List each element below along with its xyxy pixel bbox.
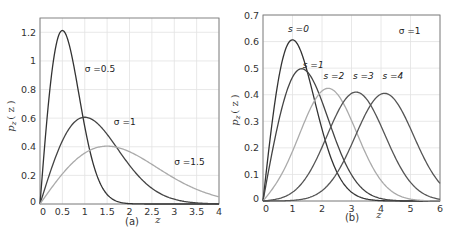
x-tick-label: 0.5	[55, 206, 70, 217]
y-tick-label: 0	[253, 193, 259, 204]
y-tick-label: 1.2	[21, 27, 36, 38]
x-tick-label: 2	[319, 203, 325, 214]
x-tick-label: 5	[407, 203, 413, 214]
y-tick-label: 0.7	[244, 10, 259, 21]
curve-annotation: σ =1	[399, 26, 421, 36]
curve-annotation: s =3	[353, 71, 374, 81]
y-tick-label: 0.6	[21, 113, 36, 124]
y-tick-label: 0.4	[244, 89, 259, 100]
curve-annotation: s =0	[288, 24, 309, 34]
svg-text:pz( z ): pz( z )	[229, 94, 242, 126]
y-axis-label-a: pz( z )	[5, 100, 18, 132]
y-tick-label: 0.4	[21, 141, 36, 152]
chart-panel-a: 00.511.522.533.5400.20.40.60.811.2σ =0.5…	[21, 18, 222, 217]
y-axis-label-b: pz( z )	[229, 94, 242, 126]
x-tick-label: 1	[82, 206, 88, 217]
curve-annotation: σ =1.5	[174, 157, 204, 167]
x-tick-label: 6	[437, 203, 443, 214]
curve-annotation: s =1	[303, 60, 324, 70]
curve-annotation: σ =0.5	[85, 64, 115, 74]
y-tick-label: 0.5	[244, 63, 259, 74]
x-axis-label-b: z	[375, 209, 382, 220]
chart-panel-b: 012345600.10.20.30.40.50.60.7s =0s =1s =…	[244, 10, 443, 215]
x-tick-label: 3	[171, 206, 177, 217]
x-tick-label: 0	[263, 203, 269, 214]
caption-a: (a)	[125, 216, 139, 227]
curve-annotation: s =4	[382, 71, 403, 81]
y-tick-label: 0.6	[244, 36, 259, 47]
y-tick-label: 0.8	[21, 84, 36, 95]
x-tick-label: 1	[289, 203, 295, 214]
figure: 00.511.522.533.5400.20.40.60.811.2σ =0.5…	[0, 0, 454, 240]
y-tick-label: 0	[30, 196, 36, 207]
y-tick-label: 0.1	[244, 169, 259, 180]
x-axis-label-a: z	[154, 214, 161, 225]
x-tick-label: 0	[40, 206, 46, 217]
y-tick-label: 0.3	[244, 116, 259, 127]
x-tick-label: 1.5	[100, 206, 115, 217]
y-tick-label: 1	[30, 55, 36, 66]
x-tick-label: 3.5	[189, 206, 204, 217]
y-tick-label: 0.2	[21, 170, 36, 181]
y-tick-label: 0.2	[244, 142, 259, 153]
grid	[40, 18, 219, 204]
x-tick-label: 4	[216, 206, 222, 217]
svg-text:pz( z ): pz( z )	[5, 100, 18, 132]
caption-b: (b)	[345, 212, 359, 223]
curve-annotation: s =2	[323, 71, 344, 81]
grid	[263, 15, 440, 201]
curve-annotation: σ =1	[114, 117, 136, 127]
